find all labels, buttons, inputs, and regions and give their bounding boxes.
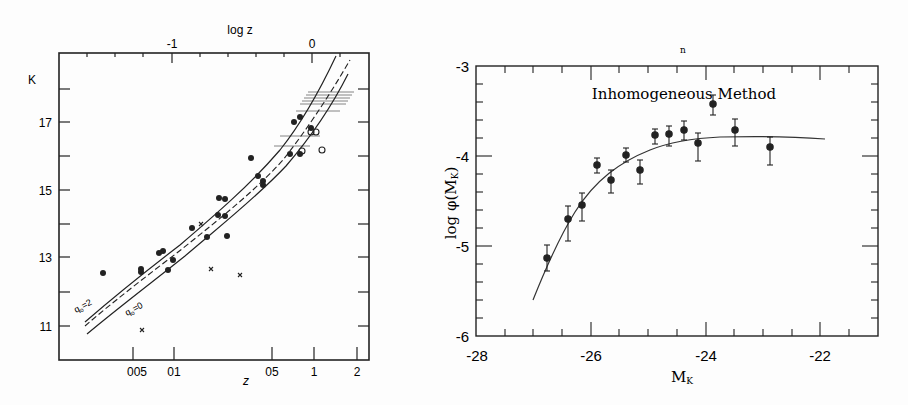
data-point [652, 129, 658, 144]
y-tick-label: 13 [39, 251, 53, 265]
x-tick-label: 05 [265, 365, 279, 379]
top-tick-label: -1 [167, 37, 178, 51]
luminosity-function-chart: n Inhomogeneous Method -3 -4 -5 -6 -28 -… [440, 0, 908, 405]
data-point [637, 160, 643, 184]
fit-curve [533, 137, 825, 300]
svg-text:qo=2: qo=2 [72, 297, 94, 315]
data-points [544, 95, 773, 271]
label-q0-2: qo=2 [72, 297, 94, 315]
y-tick-label: -4 [456, 148, 469, 165]
plot-frame [59, 53, 369, 360]
top-tick-label: 0 [309, 37, 316, 51]
x-axis-label: z [242, 374, 249, 388]
data-point [544, 245, 550, 271]
k-redshift-plot-svg: log z -1 0 K 17 15 13 11 005 01 05 1 2 z… [0, 0, 450, 405]
data-point [767, 137, 773, 165]
data-point [681, 121, 687, 140]
svg-text:qo=0: qo=0 [123, 300, 145, 318]
x-tick-label: -28 [466, 347, 488, 364]
x-tick-label: 005 [127, 365, 147, 379]
x-axis-label: MK [671, 368, 693, 386]
y-tick-label: -6 [456, 328, 469, 345]
curve-dashed [85, 60, 350, 326]
top-axis-ticks [87, 53, 340, 63]
data-point [579, 193, 585, 221]
plot-frame [476, 66, 878, 336]
limit-bars [274, 92, 354, 146]
data-point [732, 119, 738, 146]
y-tick-label: -3 [456, 58, 469, 75]
x-tick-label: 1 [311, 365, 318, 379]
y-axis-ticks [59, 89, 369, 326]
label-q0-0: qo=0 [123, 300, 145, 318]
x-tick-label: -22 [809, 347, 831, 364]
curve-q0-2 [85, 56, 336, 322]
y-tick-label: -5 [456, 238, 469, 255]
luminosity-function-plot-svg: n Inhomogeneous Method -3 -4 -5 -6 -28 -… [440, 0, 908, 405]
data-point [695, 133, 701, 161]
x-tick-label: 01 [167, 365, 181, 379]
bottom-axis-ticks [133, 347, 357, 360]
y-tick-label: 17 [39, 116, 53, 130]
data-point [594, 158, 600, 173]
data-point [565, 206, 571, 241]
x-axis-ticks [505, 66, 849, 336]
y-tick-label: 15 [39, 184, 53, 198]
curve-q0-0 [87, 74, 348, 334]
top-mark: n [680, 45, 686, 55]
y-axis-ticks [476, 84, 878, 318]
svg-text:log φ(MK): log φ(MK) [442, 167, 460, 240]
chart-title: Inhomogeneous Method [592, 85, 777, 103]
y-tick-label: 11 [40, 320, 53, 334]
y-axis-label: log φ(MK) [442, 167, 460, 240]
x-tick-label: -26 [580, 347, 602, 364]
top-axis-label: log z [227, 23, 252, 37]
filled-points [100, 114, 314, 276]
x-tick-label: -24 [695, 347, 717, 364]
x-tick-label: 2 [354, 365, 361, 379]
y-axis-label: K [28, 73, 36, 87]
k-redshift-chart: log z -1 0 K 17 15 13 11 005 01 05 1 2 z… [0, 0, 450, 405]
